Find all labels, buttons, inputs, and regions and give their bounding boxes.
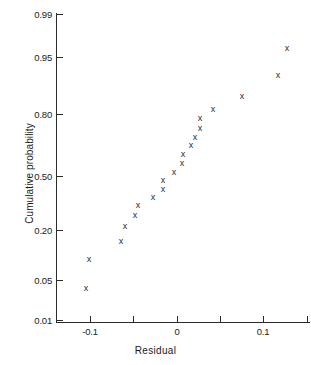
y-tick-mark	[57, 320, 63, 321]
data-point-marker: x	[84, 284, 89, 293]
data-point-marker: x	[119, 237, 124, 246]
y-tick-mark	[57, 14, 63, 15]
x-tick-mark	[220, 316, 221, 322]
x-tick-label: 0	[174, 326, 179, 337]
y-tick-mark	[57, 280, 63, 281]
y-tick-mark	[57, 230, 63, 231]
data-point-marker: x	[198, 114, 203, 123]
data-point-marker: x	[240, 92, 245, 101]
data-point-marker: x	[198, 124, 203, 133]
data-point-marker: x	[151, 193, 156, 202]
x-tick-mark	[177, 316, 178, 322]
data-point-marker: x	[136, 201, 141, 210]
y-tick-label: 0.20	[34, 225, 52, 236]
y-tick-label: 0.95	[34, 52, 52, 63]
data-point-marker: x	[87, 255, 92, 264]
x-tick-label: 0.1	[257, 326, 270, 337]
y-tick-label: 0.50	[34, 171, 52, 182]
data-point-marker: x	[181, 150, 186, 159]
data-point-marker: x	[133, 211, 138, 220]
data-point-marker: x	[123, 222, 128, 231]
x-axis-spine	[56, 322, 310, 323]
data-point-marker: x	[172, 168, 177, 177]
x-tick-mark	[133, 316, 134, 322]
data-point-marker: x	[161, 176, 166, 185]
y-tick-mark	[57, 57, 63, 58]
x-tick-mark	[307, 316, 308, 322]
x-tick-mark	[263, 316, 264, 322]
data-point-marker: x	[193, 133, 198, 142]
data-point-marker: x	[161, 185, 166, 194]
y-axis-spine	[56, 13, 57, 323]
y-tick-mark	[57, 114, 63, 115]
y-tick-label: 0.80	[34, 109, 52, 120]
y-tick-label: 0.01	[34, 315, 52, 326]
data-point-marker: x	[189, 141, 194, 150]
probability-plot: 0.990.950.800.500.200.050.01 -0.100.1 xx…	[0, 0, 311, 365]
data-point-marker: x	[211, 105, 216, 114]
data-point-marker: x	[180, 159, 185, 168]
y-axis-title: Cumulative probability	[24, 99, 35, 249]
x-axis-title: Residual	[0, 345, 311, 356]
x-tick-label: -0.1	[82, 326, 98, 337]
y-tick-label: 0.05	[34, 275, 52, 286]
y-tick-mark	[57, 176, 63, 177]
data-point-marker: x	[276, 71, 281, 80]
y-tick-label: 0.99	[34, 9, 52, 20]
data-point-marker: x	[285, 44, 290, 53]
x-tick-mark	[90, 316, 91, 322]
